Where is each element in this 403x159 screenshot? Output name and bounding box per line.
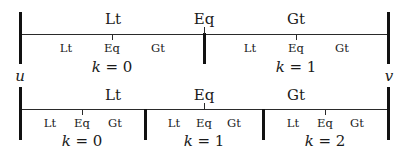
top-middle-bar: [203, 33, 206, 64]
bottom-divider-bar-2: [262, 109, 265, 140]
bottom-label-eq: Eq: [194, 88, 215, 103]
top-seg1-eq-tick: [296, 34, 297, 40]
bottom-divider-bar-1: [144, 109, 147, 140]
bottom-left-bar: [19, 87, 22, 140]
k-variable: k: [276, 58, 285, 76]
k-variable: k: [184, 132, 193, 150]
vertex-u: u: [15, 69, 25, 84]
bottom-label-lt: Lt: [105, 88, 121, 103]
top-seg0-gt: Gt: [151, 43, 165, 55]
vertex-v: v: [385, 69, 393, 84]
top-left-bar: [19, 12, 22, 64]
k-value: = 1: [285, 58, 317, 76]
top-seg1-lt: Lt: [244, 43, 256, 55]
k-value: = 2: [314, 132, 346, 150]
top-seg1-k-label: k = 1: [276, 60, 317, 75]
bottom-seg2-lt: Lt: [287, 118, 299, 130]
bottom-seg2-eq-tick: [325, 109, 326, 115]
k-value: = 0: [101, 58, 133, 76]
bottom-seg0-eq: Eq: [74, 118, 90, 130]
bottom-seg0-k-label: k = 0: [62, 134, 103, 149]
bottom-seg2-gt: Gt: [350, 118, 364, 130]
top-label-eq: Eq: [194, 12, 215, 27]
bottom-seg0-gt: Gt: [108, 118, 122, 130]
top-eq-tick: [204, 27, 205, 34]
top-seg1-eq: Eq: [288, 43, 304, 55]
top-seg0-eq-tick: [112, 34, 113, 40]
top-seg1-gt: Gt: [335, 43, 349, 55]
bottom-seg0-eq-tick: [82, 109, 83, 115]
bottom-seg2-k-label: k = 2: [305, 134, 346, 149]
top-label-lt: Lt: [105, 12, 121, 27]
k-variable: k: [92, 58, 101, 76]
top-label-gt: Gt: [287, 12, 305, 27]
bottom-seg1-k-label: k = 1: [184, 134, 225, 149]
bottom-axis-line: [20, 109, 389, 110]
k-value: = 0: [71, 132, 103, 150]
top-seg0-lt: Lt: [60, 43, 72, 55]
bottom-seg1-gt: Gt: [227, 118, 241, 130]
bottom-seg0-lt: Lt: [44, 118, 56, 130]
top-seg0-k-label: k = 0: [92, 60, 133, 75]
bottom-seg2-eq: Eq: [317, 118, 333, 130]
k-variable: k: [62, 132, 71, 150]
bottom-seg1-eq: Eq: [196, 118, 212, 130]
bottom-right-bar: [387, 87, 390, 140]
k-value: = 1: [193, 132, 225, 150]
top-seg0-eq: Eq: [104, 43, 120, 55]
top-right-bar: [387, 12, 390, 64]
bottom-label-gt: Gt: [287, 88, 305, 103]
bottom-seg1-lt: Lt: [168, 118, 180, 130]
k-variable: k: [305, 132, 314, 150]
